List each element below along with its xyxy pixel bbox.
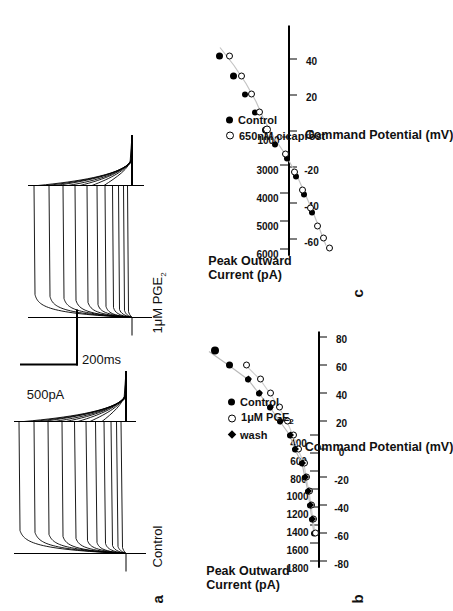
legend-label: Control <box>238 113 277 125</box>
panel-c-y-axis-title: Peak Outward Current (pA) <box>208 253 291 281</box>
scalebar-current-label: 500pA <box>27 387 65 402</box>
panel-a-title-control: Control <box>151 525 164 567</box>
data-point-control <box>230 72 237 79</box>
panel-b-label: b <box>350 594 365 603</box>
legend-item-wash[interactable]: wash <box>228 428 294 440</box>
data-point-control <box>216 52 223 59</box>
legend-label: 1μM PGE2 <box>241 410 294 425</box>
panel-b-y-axis-title: Peak Outward Current (pA) <box>206 563 289 591</box>
legend-item-control[interactable]: Control <box>228 395 294 407</box>
scalebar-group: 500pA 200ms <box>20 295 90 365</box>
drug-subscript: 2 <box>159 272 168 276</box>
panel-b-legend: Control 1μM PGE2 wash <box>228 395 294 440</box>
y-axis-title-line2: Current (pA) <box>208 267 291 281</box>
panel-a: a Control 1μM PGE2 <box>0 0 196 611</box>
legend-marker-open-circle <box>226 131 234 139</box>
panel-c-legend: Control 650nM cicaprost <box>226 113 325 141</box>
panel-c: c 6000 <box>200 0 396 305</box>
data-point-pge2 <box>257 375 264 382</box>
panel-b: b <box>200 306 396 611</box>
scalebar-vertical <box>20 363 78 365</box>
data-point-cicaprost <box>291 168 298 175</box>
legend-label: 650nM cicaprost <box>239 129 325 141</box>
scalebar-horizontal <box>76 309 78 365</box>
scalebar-time-label: 200ms <box>82 352 121 367</box>
legend-label: Control <box>240 395 279 407</box>
panel-c-label: c <box>350 289 365 297</box>
data-point-pge2 <box>312 529 319 536</box>
data-point-cicaprost <box>314 222 321 229</box>
legend-item-pge2[interactable]: 1μM PGE2 <box>228 410 294 425</box>
data-point-control <box>272 141 278 147</box>
data-point-cicaprost <box>226 52 233 59</box>
panel-c-x-axis-title: Command Potential (mV) <box>305 128 453 142</box>
data-point-cicaprost <box>326 244 333 251</box>
legend-item-control[interactable]: Control <box>226 113 325 125</box>
y-axis-title-line2: Current (pA) <box>206 577 289 591</box>
legend-marker-filled-circle <box>226 116 233 123</box>
data-point-cicaprost <box>282 150 289 157</box>
y-axis-title-line1: Peak Outward <box>208 253 291 267</box>
data-point-cicaprost <box>320 234 327 241</box>
legend-marker-filled-diamond <box>228 430 236 438</box>
y-axis-title-line1: Peak Outward <box>206 563 289 577</box>
legend-marker-open-circle <box>228 414 236 422</box>
data-point-cicaprost <box>238 72 245 79</box>
legend-label: wash <box>240 428 268 440</box>
data-point-cicaprost <box>248 90 255 97</box>
data-point-cicaprost <box>307 204 314 211</box>
legend-item-cicaprost[interactable]: 650nM cicaprost <box>226 129 325 141</box>
data-point-pge2 <box>243 361 250 368</box>
data-point-control <box>211 346 219 354</box>
panel-b-x-axis-title: Command Potential (mV) <box>305 440 453 454</box>
data-point-cicaprost <box>299 186 306 193</box>
panel-a-label: a <box>150 595 165 603</box>
legend-marker-filled-circle <box>228 398 235 405</box>
data-point-control <box>226 361 233 368</box>
